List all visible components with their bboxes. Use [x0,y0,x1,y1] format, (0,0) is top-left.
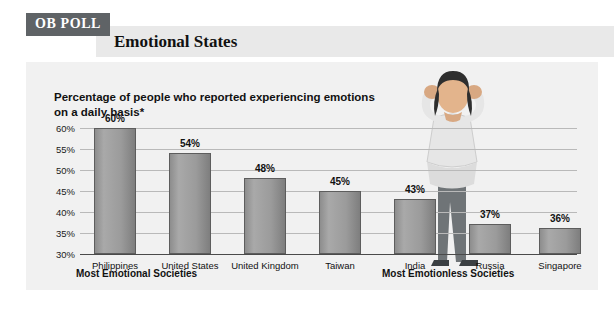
category-label-united-kingdom: United Kingdom [228,260,302,272]
header: OB POLL Emotional States [0,0,614,62]
bar-value-india: 43% [385,184,445,195]
x-axis-line: 30% [80,254,577,255]
ytick-label-30: 30% [56,249,75,260]
ytick-label-55: 55% [56,144,75,155]
bar-india [394,199,436,254]
ytick-label-60: 60% [56,123,75,134]
ytick-label-40: 40% [56,207,75,218]
bar-value-united-kingdom: 48% [235,163,295,174]
gridline-50: 50% [80,170,577,171]
bar-taiwan [319,191,361,254]
bar-singapore [539,228,581,254]
chart-panel: Percentage of people who reported experi… [26,62,598,290]
gridline-60: 60% [80,128,577,129]
category-label-singapore: Singapore [523,260,597,272]
poll-badge: OB POLL [26,13,110,36]
gridline-55: 55% [80,149,577,150]
page-title: Emotional States [114,32,237,52]
bar-value-russia: 37% [460,209,520,220]
category-label-taiwan: Taiwan [303,260,377,272]
bar-philippines [94,128,136,254]
plot-area: 60% 55% 50% 45% 40% 35% 30% 60% 54% 48% … [80,128,577,254]
bar-united-kingdom [244,178,286,254]
bar-value-philippines: 60% [85,113,145,124]
footnote-most-emotionless: Most Emotionless Societies [382,268,514,279]
ytick-label-45: 45% [56,186,75,197]
bar-russia [469,224,511,254]
bar-value-united-states: 54% [160,138,220,149]
poll-graphic: OB POLL Emotional States Percentage of p… [0,0,614,323]
bar-value-taiwan: 45% [310,176,370,187]
bar-value-singapore: 36% [530,213,590,224]
ytick-label-50: 50% [56,165,75,176]
footnote-most-emotional: Most Emotional Societies [76,268,197,279]
ytick-label-35: 35% [56,228,75,239]
bar-united-states [169,153,211,254]
